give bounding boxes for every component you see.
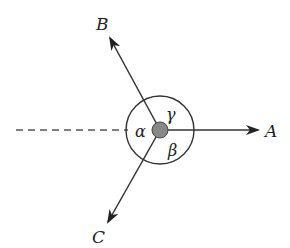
vector-c-arrow	[108, 130, 160, 222]
label-b: B	[95, 14, 109, 34]
angle-gamma-label: γ	[166, 105, 176, 124]
vector-angle-diagram: A B C α β γ	[0, 0, 290, 248]
angle-beta-label: β	[167, 141, 177, 160]
label-c: C	[92, 227, 105, 247]
angle-alpha-label: α	[135, 122, 146, 141]
center-point	[152, 122, 168, 138]
label-a: A	[263, 121, 277, 141]
vector-b-arrow	[110, 38, 160, 130]
